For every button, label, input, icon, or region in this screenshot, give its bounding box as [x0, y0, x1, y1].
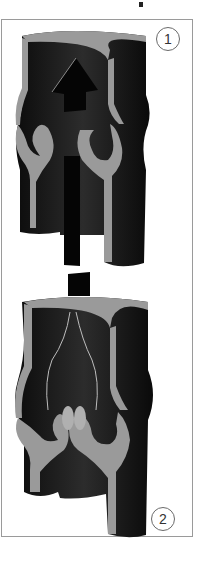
open-valve-vessel: [16, 31, 150, 266]
valve-illustration: [0, 0, 199, 561]
closed-valve-vessel: [15, 297, 153, 537]
panel-label-1: 1: [156, 27, 180, 51]
panel-label-2: 2: [151, 507, 175, 531]
arrow-tail: [68, 272, 90, 296]
